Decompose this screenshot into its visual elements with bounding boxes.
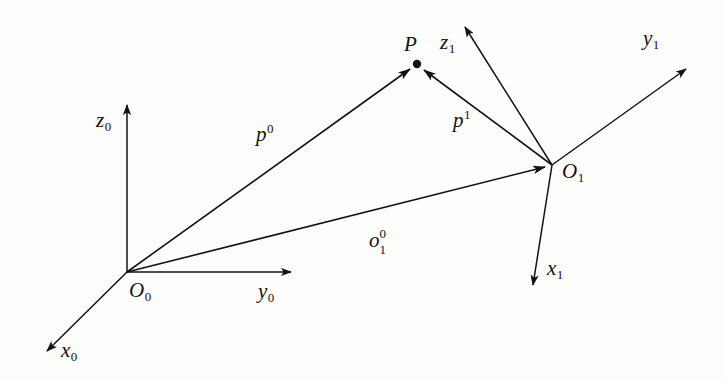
axis-label-z1-sub: 1 (449, 41, 456, 56)
vector-label-o10: o01 (369, 230, 389, 251)
point-p-dot (413, 60, 421, 68)
axis-label-z1-base: z (440, 30, 448, 54)
axis-label-y1-base: y (643, 26, 652, 50)
axis-label-x1-base: x (547, 256, 556, 280)
diagram-canvas (0, 0, 725, 381)
axis-label-x0-base: x (61, 338, 70, 362)
axis-label-y0: y0 (258, 281, 274, 304)
axis-label-z0-base: z (96, 108, 104, 132)
axis-label-z0: z0 (96, 110, 111, 133)
vector-label-p0-sup: 0 (267, 121, 274, 136)
axis-x0-arrow (47, 272, 127, 351)
vector-label-p1-base: p (453, 108, 464, 132)
axis-z1-arrow (465, 27, 552, 165)
axis-label-y1: y1 (643, 28, 659, 51)
vector-label-p0: p0 (256, 122, 274, 145)
axis-label-x1-sub: 1 (557, 267, 564, 282)
axis-label-y0-base: y (258, 279, 267, 303)
axis-label-z0-sub: 0 (105, 119, 112, 134)
vector-p1-arrow (424, 70, 552, 165)
coordinate-frame-diagram: x0 y0 z0 O0 x1 y1 z1 O1 P p0 p1 o01 (0, 0, 725, 381)
point-label-P: P (404, 34, 417, 55)
axis-label-x1: x1 (547, 258, 563, 281)
vector-label-o10-base: o (369, 228, 380, 252)
point-label-P-base: P (404, 32, 417, 56)
axis-label-x0-sub: 0 (71, 349, 78, 364)
axis-label-z1: z1 (440, 32, 455, 55)
origin-label-O1: O1 (562, 161, 584, 184)
axis-label-y0-sub: 0 (268, 290, 275, 305)
axis-label-y1-sub: 1 (653, 37, 660, 52)
vector-label-o10-sub: 1 (380, 243, 387, 256)
vector-o10-arrow (127, 167, 545, 272)
origin-label-O1-base: O (562, 159, 577, 183)
origin-label-O0: O0 (129, 280, 151, 303)
origin-label-O1-sub: 1 (578, 170, 585, 185)
vector-label-p1: p1 (453, 108, 471, 131)
vector-label-o10-sup: 0 (380, 227, 387, 240)
vector-label-p1-sup: 1 (464, 107, 471, 122)
axis-y1-arrow (552, 69, 686, 165)
vector-label-p0-base: p (256, 122, 267, 146)
origin-label-O0-sub: 0 (145, 289, 152, 304)
axis-label-x0: x0 (61, 340, 77, 363)
vector-p0-arrow (127, 69, 410, 272)
origin-label-O0-base: O (129, 278, 144, 302)
